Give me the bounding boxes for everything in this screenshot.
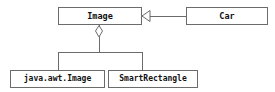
aggregation-diamond-icon	[96, 26, 103, 38]
class-name-car: Car	[219, 12, 234, 21]
generalization-triangle-icon	[142, 11, 150, 22]
class-name-java-awt-image: java.awt.Image	[24, 75, 91, 83]
class-box-smart-rectangle[interactable]: SmartRectangle	[108, 70, 198, 88]
class-name-smart-rectangle: SmartRectangle	[119, 75, 186, 83]
class-box-java-awt-image[interactable]: java.awt.Image	[10, 70, 105, 88]
class-box-image[interactable]: Image	[58, 7, 142, 25]
class-box-car[interactable]: Car	[186, 7, 268, 25]
uml-class-diagram-canvas: Image Car java.awt.Image SmartRectangle	[0, 0, 275, 92]
class-name-image: Image	[87, 12, 113, 21]
